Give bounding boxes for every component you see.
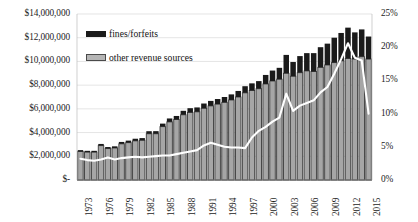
bar-segment-other-revenue: [297, 73, 302, 180]
bar-segment-other-revenue: [242, 93, 247, 180]
y-axis-right-tick: 25%: [381, 8, 398, 18]
x-axis-tick: 2006: [310, 198, 320, 216]
bar-segment-other-revenue: [78, 152, 83, 180]
bar-segment-fines-forfeits: [277, 68, 282, 79]
bar-segment-fines-forfeits: [263, 75, 268, 84]
bar-segment-other-revenue: [229, 100, 234, 180]
bar-segment-fines-forfeits: [85, 151, 90, 152]
bar-segment-other-revenue: [270, 81, 275, 180]
bar-segment-other-revenue: [338, 61, 343, 180]
bar-segment-fines-forfeits: [311, 53, 316, 71]
bar-segment-fines-forfeits: [153, 131, 158, 134]
bar-segment-fines-forfeits: [194, 107, 199, 111]
bar-segment-fines-forfeits: [325, 44, 330, 65]
bar-segment-other-revenue: [174, 120, 179, 180]
bar-segment-other-revenue: [85, 152, 90, 180]
bar-segment-fines-forfeits: [208, 101, 213, 106]
y-axis-right-tick: 20%: [381, 41, 398, 51]
bar-segment-other-revenue: [133, 141, 138, 180]
x-axis-tick: 2003: [290, 198, 300, 216]
bar-segment-fines-forfeits: [98, 144, 103, 146]
bar-segment-other-revenue: [277, 79, 282, 180]
bar-segment-other-revenue: [345, 58, 350, 180]
y-axis-left-tick: $14,000,000: [0, 8, 70, 18]
y-axis-left-tick: $12,000,000: [0, 32, 70, 42]
bar-segment-fines-forfeits: [181, 111, 186, 115]
legend-item-fines-forfeits: fines/forfeits: [86, 28, 158, 39]
bar-segment-other-revenue: [304, 71, 309, 180]
y-axis-right-tick: 0%: [381, 174, 393, 184]
x-axis-tick: 2015: [372, 198, 382, 216]
bar-segment-fines-forfeits: [174, 116, 179, 120]
x-axis-tick: 1997: [249, 198, 259, 216]
legend-label-other-revenue-sources: other revenue sources: [109, 52, 193, 63]
bar-segment-fines-forfeits: [78, 150, 83, 151]
bar-segment-other-revenue: [256, 89, 261, 180]
bar-segment-fines-forfeits: [160, 124, 165, 127]
bar-segment-other-revenue: [332, 63, 337, 180]
bar-segment-other-revenue: [290, 76, 295, 180]
bar-segment-other-revenue: [119, 144, 124, 180]
y-axis-right-tick: 5%: [381, 141, 393, 151]
x-axis-tick: 1982: [146, 198, 156, 216]
y-axis-right-tick: 10%: [381, 108, 398, 118]
bar-segment-fines-forfeits: [284, 55, 289, 73]
bar-segment-fines-forfeits: [112, 146, 117, 148]
y-axis-left-tick: $4,000,000: [0, 127, 70, 137]
bar-segment-other-revenue: [112, 148, 117, 180]
x-axis-tick: 1979: [125, 198, 135, 216]
y-axis-left-tick: $10,000,000: [0, 55, 70, 65]
bar-segment-fines-forfeits: [290, 62, 295, 76]
bar-segment-other-revenue: [181, 115, 186, 180]
black-bar-swatch: [86, 31, 106, 37]
bar-segment-fines-forfeits: [304, 53, 309, 71]
bar-segment-fines-forfeits: [297, 56, 302, 73]
x-axis-tick: 1976: [105, 198, 115, 216]
bar-segment-other-revenue: [160, 127, 165, 180]
bar-segment-fines-forfeits: [318, 47, 323, 67]
bar-segment-fines-forfeits: [133, 139, 138, 141]
bar-segment-other-revenue: [194, 112, 199, 180]
bar-segment-other-revenue: [139, 140, 144, 180]
bar-segment-fines-forfeits: [235, 91, 240, 97]
x-axis-tick: 2000: [269, 198, 279, 216]
bar-segment-other-revenue: [98, 146, 103, 180]
bar-segment-fines-forfeits: [105, 147, 110, 149]
bar-segment-fines-forfeits: [167, 118, 172, 121]
bar-segment-fines-forfeits: [242, 86, 247, 93]
bar-segment-other-revenue: [167, 122, 172, 180]
y-axis-left-tick: $-: [0, 174, 70, 184]
bar-segment-fines-forfeits: [256, 81, 261, 89]
bar-segment-fines-forfeits: [215, 99, 220, 104]
y-axis-left-tick: $8,000,000: [0, 79, 70, 89]
bar-segment-other-revenue: [263, 84, 268, 180]
x-axis-tick: 2009: [331, 198, 341, 216]
bar-segment-other-revenue: [311, 72, 316, 180]
bar-segment-other-revenue: [126, 143, 131, 180]
bar-segment-fines-forfeits: [146, 131, 151, 134]
x-axis-tick: 1985: [166, 198, 176, 216]
bar-segment-fines-forfeits: [201, 104, 206, 109]
bar-segment-other-revenue: [318, 67, 323, 180]
bar-segment-fines-forfeits: [119, 142, 124, 144]
bar-segment-fines-forfeits: [249, 83, 254, 90]
legend-label-fines-forfeits: fines/forfeits: [109, 28, 158, 39]
y-axis-left-tick: $2,000,000: [0, 150, 70, 160]
bar-segment-fines-forfeits: [91, 151, 96, 152]
bar-segment-other-revenue: [222, 102, 227, 180]
bar-segment-other-revenue: [105, 149, 110, 180]
y-axis-right-tick: 15%: [381, 74, 398, 84]
grey-bar-swatch: [86, 54, 106, 61]
bar-segment-other-revenue: [284, 73, 289, 180]
bar-segment-fines-forfeits: [229, 94, 234, 100]
x-axis-tick: 1973: [84, 198, 94, 216]
bar-segment-other-revenue: [235, 97, 240, 180]
x-axis-tick: 1991: [208, 198, 218, 216]
x-axis-tick: 1994: [228, 198, 238, 216]
y-axis-left-tick: $6,000,000: [0, 103, 70, 113]
bar-segment-other-revenue: [366, 59, 371, 180]
bar-segment-fines-forfeits: [139, 138, 144, 140]
bar-segment-fines-forfeits: [187, 108, 192, 112]
legend-item-other-revenue-sources: other revenue sources: [86, 52, 193, 63]
bar-segment-fines-forfeits: [366, 37, 371, 60]
